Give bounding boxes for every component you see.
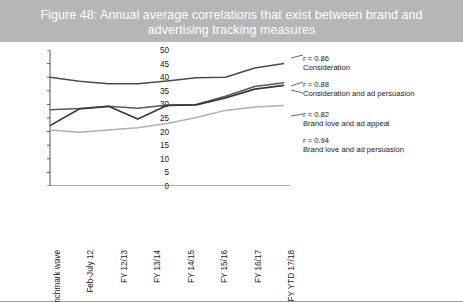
annotation-label: Consideration and ad persuasion bbox=[303, 89, 414, 98]
annotation-r-value: r = 0.88 bbox=[303, 80, 414, 89]
annotation-4: r = 0.94Brand love and ad persuasion bbox=[303, 136, 404, 155]
line-chart-svg bbox=[40, 50, 290, 186]
series-line-top-2-box-consideration bbox=[50, 64, 284, 84]
figure-container: Figure 48: Annual average correlations t… bbox=[0, 0, 463, 302]
annotation-label: Brand love and ad appeal bbox=[303, 119, 390, 128]
x-axis-tick-labels: Benchmark waveFeb-July 12FY 12/13FY 13/1… bbox=[40, 188, 292, 254]
figure-title: Figure 48: Annual average correlations t… bbox=[40, 8, 423, 38]
series-line-ad-appeal bbox=[50, 85, 284, 125]
series-line-brand-love bbox=[50, 105, 284, 132]
annotation-r-value: r = 0.82 bbox=[303, 110, 390, 119]
annotation-r-value: r = 0.94 bbox=[303, 136, 404, 145]
annotation-label: Brand love and ad persuasion bbox=[303, 145, 404, 154]
annotation-r-value: r = 0.86 bbox=[303, 54, 350, 63]
annotation-3: r = 0.82Brand love and ad appeal bbox=[303, 110, 390, 129]
plot-area bbox=[40, 50, 290, 186]
annotation-label: Consideration bbox=[303, 63, 350, 72]
annotation-leader-lines bbox=[291, 52, 305, 152]
figure-title-band: Figure 48: Annual average correlations t… bbox=[0, 0, 463, 42]
annotation-2: r = 0.88Consideration and ad persuasion bbox=[303, 80, 414, 99]
annotation-1: r = 0.86Consideration bbox=[303, 54, 350, 73]
legend-box: Top 2 box considerationBrand loveAd pers… bbox=[44, 256, 388, 292]
